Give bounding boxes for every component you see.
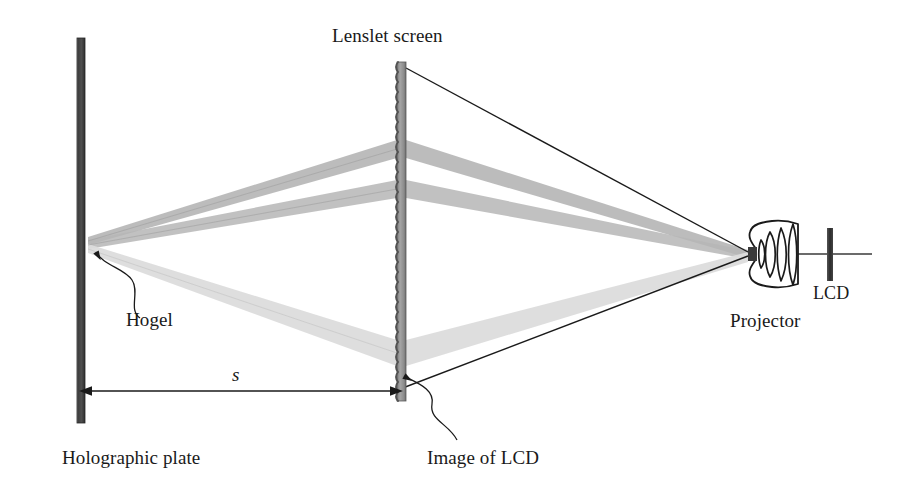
lenslet-screen[interactable] [396,62,406,401]
ray-outline-bottom [400,256,748,389]
label-lcd: LCD [813,284,849,302]
light-beam-group [88,140,748,366]
label-image-of-lcd: Image of LCD [427,448,539,467]
diagram-canvas [0,0,909,491]
beam-lower-right [406,252,748,366]
label-projector: Projector [730,311,801,330]
label-hogel: Hogel [126,310,173,329]
label-holographic-plate: Holographic plate [62,448,200,467]
label-distance-s: s [232,365,240,384]
label-lenslet-screen: Lenslet screen [332,26,443,45]
entrance-aperture [748,247,757,261]
lens-element-1 [759,240,765,268]
lens-element-4 [789,224,797,285]
optical-diagram-figure: Lenslet screen Hogel s Holographic plate… [0,0,909,491]
holographic-plate[interactable] [77,38,85,423]
image-of-lcd-leader [404,376,457,440]
lens-element-2 [766,232,776,277]
lcd-panel[interactable] [827,228,833,281]
projector[interactable] [748,221,872,288]
beam-middle-right [406,180,748,259]
